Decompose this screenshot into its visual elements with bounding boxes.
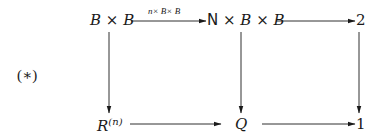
arrows-layer xyxy=(0,0,381,140)
commutative-diagram: (∗) B × B n× B× B N × B × B 2 R(n) Q 1 xyxy=(0,0,381,140)
